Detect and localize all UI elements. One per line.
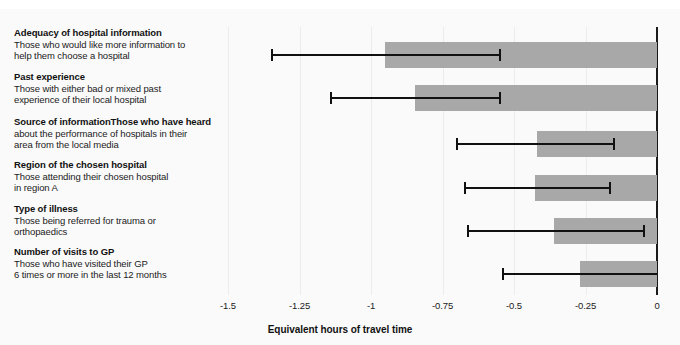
category-label-desc: 6 times or more in the last 12 months bbox=[14, 269, 228, 281]
error-bar bbox=[457, 143, 614, 145]
x-tick-label: -0.5 bbox=[506, 300, 522, 311]
error-bar-cap bbox=[456, 138, 458, 150]
error-bar-cap bbox=[330, 92, 332, 104]
category-label-desc: Those who have visited their GP bbox=[14, 258, 228, 270]
error-bar bbox=[272, 54, 500, 56]
category-label-desc: Those with either bad or mixed past bbox=[14, 83, 228, 95]
category-label-head: Number of visits to GP bbox=[14, 246, 228, 258]
error-bar-cap bbox=[467, 225, 469, 237]
plot-area bbox=[228, 27, 657, 295]
category-label-6: Number of visits to GPThose who have vis… bbox=[14, 246, 228, 281]
chart-row bbox=[228, 261, 657, 287]
error-bar-cap bbox=[271, 49, 273, 61]
category-label-desc: orthopaedics bbox=[14, 226, 228, 238]
category-label-desc: Those being referred for trauma or bbox=[14, 215, 228, 227]
chart-row bbox=[228, 131, 657, 157]
chart-row bbox=[228, 42, 657, 68]
error-bar bbox=[331, 97, 500, 99]
category-label-desc: in region A bbox=[14, 182, 228, 194]
error-bar-cap bbox=[499, 92, 501, 104]
chart-row bbox=[228, 175, 657, 201]
category-label-head: Source of informationThose who have hear… bbox=[14, 116, 228, 128]
category-label-desc: Those who would like more information to bbox=[14, 39, 228, 51]
chart-container: Adequacy of hospital informationThose wh… bbox=[0, 0, 680, 345]
error-bar-cap bbox=[502, 268, 504, 280]
error-bar-cap bbox=[499, 49, 501, 61]
category-label-head: Past experience bbox=[14, 71, 228, 83]
x-tick-label: 0 bbox=[654, 300, 659, 311]
error-bar bbox=[503, 273, 657, 275]
category-label-head: Adequacy of hospital information bbox=[14, 27, 228, 39]
x-tick-label: -0.75 bbox=[432, 300, 453, 311]
category-label-1: Adequacy of hospital informationThose wh… bbox=[14, 27, 228, 62]
category-label-head: Region of the chosen hospital bbox=[14, 159, 228, 171]
x-tick-label: -1.25 bbox=[289, 300, 310, 311]
error-bar-cap bbox=[643, 225, 645, 237]
category-label-desc: Those attending their chosen hospital bbox=[14, 171, 228, 183]
x-tick-label: -0.25 bbox=[575, 300, 596, 311]
chart-row bbox=[228, 218, 657, 244]
category-label-5: Type of illnessThose being referred for … bbox=[14, 203, 228, 238]
x-axis-tick-labels: -1.5-1.25-1-0.75-0.5-0.250 bbox=[0, 300, 680, 314]
x-tick-label: -1.5 bbox=[220, 300, 236, 311]
category-label-desc: experience of their local hospital bbox=[14, 94, 228, 106]
x-tick-label: -1 bbox=[367, 300, 375, 311]
category-label-3: Source of informationThose who have hear… bbox=[14, 116, 228, 151]
error-bar-cap bbox=[464, 182, 466, 194]
category-label-desc: area from the local media bbox=[14, 139, 228, 151]
category-label-4: Region of the chosen hospitalThose atten… bbox=[14, 159, 228, 194]
category-label-desc: help them choose a hospital bbox=[14, 50, 228, 62]
error-bar-cap bbox=[609, 182, 611, 194]
error-bar bbox=[465, 187, 609, 189]
error-bar bbox=[468, 230, 644, 232]
category-label-desc: about the performance of hospitals in th… bbox=[14, 128, 228, 140]
error-bar-cap bbox=[613, 138, 615, 150]
category-label-2: Past experienceThose with either bad or … bbox=[14, 71, 228, 106]
title-strip bbox=[0, 0, 680, 9]
chart-panel: Adequacy of hospital informationThose wh… bbox=[0, 9, 680, 345]
chart-row bbox=[228, 85, 657, 111]
x-axis-title: Equivalent hours of travel time bbox=[0, 324, 680, 335]
category-label-head: Type of illness bbox=[14, 203, 228, 215]
